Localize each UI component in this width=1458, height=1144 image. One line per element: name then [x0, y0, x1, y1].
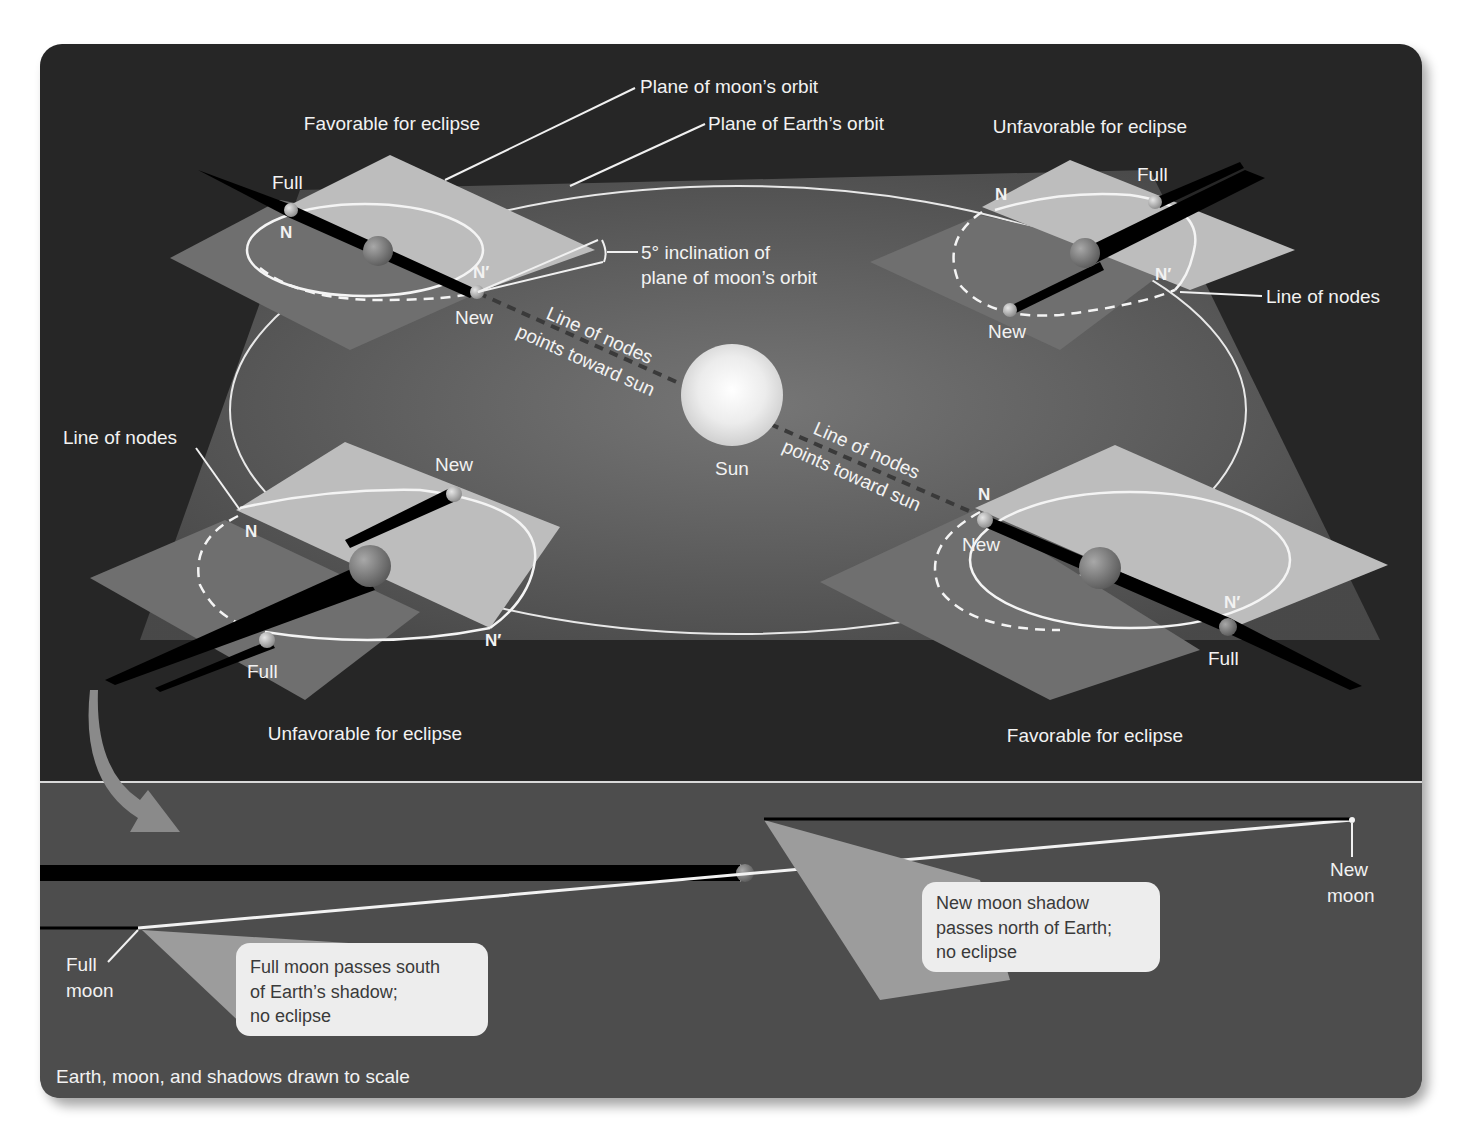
svg-text:Full moon passes south: Full moon passes south	[250, 957, 440, 977]
eclipse-diagram: Sun Line of nodes points toward sun Line…	[0, 0, 1458, 1144]
new-moon-label-1: New	[1330, 859, 1368, 880]
svg-text:no eclipse: no eclipse	[250, 1006, 331, 1026]
earth	[363, 236, 393, 266]
new-label: New	[962, 534, 1000, 555]
earth-shadow-band	[40, 865, 740, 881]
callout-new-moon: New moon shadow passes north of Earth; n…	[922, 882, 1160, 972]
full-moon	[284, 203, 298, 217]
heading-top-left: Favorable for eclipse	[304, 113, 480, 134]
node-n-prime-label: N′	[473, 263, 489, 282]
inclination-label-2: plane of moon’s orbit	[641, 267, 818, 288]
svg-text:passes north of Earth;: passes north of Earth;	[936, 918, 1112, 938]
svg-text:of Earth’s shadow;: of Earth’s shadow;	[250, 982, 398, 1002]
full-moon-label-2: moon	[66, 980, 114, 1001]
full-label: Full	[1208, 648, 1239, 669]
line-of-nodes-label: Line of nodes	[63, 427, 177, 448]
full-label: Full	[247, 661, 278, 682]
svg-text:New moon shadow: New moon shadow	[936, 893, 1090, 913]
new-label: New	[455, 307, 493, 328]
node-n-prime-label: N′	[485, 631, 501, 650]
new-label: New	[435, 454, 473, 475]
node-n-label: N	[978, 485, 990, 504]
line-of-nodes-label: Line of nodes	[1266, 286, 1380, 307]
heading-top-right: Unfavorable for eclipse	[993, 116, 1187, 137]
full-label: Full	[1137, 164, 1168, 185]
svg-text:no eclipse: no eclipse	[936, 942, 1017, 962]
heading-bottom-left: Unfavorable for eclipse	[268, 723, 462, 744]
scale-note: Earth, moon, and shadows drawn to scale	[56, 1066, 410, 1087]
node-n-prime-label: N′	[1155, 265, 1171, 284]
new-label: New	[988, 321, 1026, 342]
node-n-label: N	[280, 223, 292, 242]
sun	[681, 344, 783, 446]
sun-label: Sun	[715, 458, 749, 479]
node-n-label: N	[245, 522, 257, 541]
full-moon-label-1: Full	[66, 954, 97, 975]
new-moon-label-2: moon	[1327, 885, 1375, 906]
heading-bottom-right: Favorable for eclipse	[1007, 725, 1183, 746]
callout-full-moon: Full moon passes south of Earth’s shadow…	[236, 943, 488, 1036]
inclination-label-1: 5° inclination of	[641, 242, 771, 263]
plane-moon-orbit-label: Plane of moon’s orbit	[640, 76, 819, 97]
full-label: Full	[272, 172, 303, 193]
node-n-prime-label: N′	[1224, 593, 1240, 612]
node-n-label: N	[995, 185, 1007, 204]
plane-earth-orbit-label: Plane of Earth’s orbit	[708, 113, 885, 134]
